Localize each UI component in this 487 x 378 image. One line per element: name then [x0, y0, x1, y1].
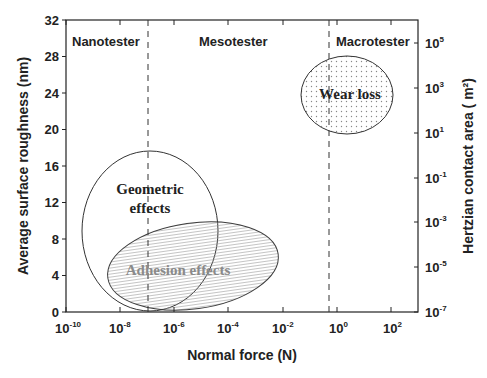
svg-text:10-4: 10-4: [217, 320, 239, 336]
svg-text:16: 16: [45, 159, 59, 174]
region-label-mesotester: Mesotester: [199, 34, 268, 49]
svg-text:10-3: 10-3: [425, 214, 447, 230]
svg-text:100: 100: [329, 320, 348, 336]
svg-text:0: 0: [52, 305, 59, 320]
y-axis-tick-labels: 0 4 8 12 16 20 24 28 32: [45, 13, 60, 320]
svg-text:10-10: 10-10: [55, 320, 82, 336]
svg-text:24: 24: [45, 86, 60, 101]
svg-text:103: 103: [425, 80, 444, 96]
x-axis-tick-labels: 10-10 10-8 10-6 10-4 10-2 100 102: [55, 320, 402, 336]
svg-text:12: 12: [45, 195, 59, 210]
chart: Nanotester Mesotester Macrotester Geomet…: [0, 0, 487, 378]
svg-text:101: 101: [425, 125, 444, 141]
svg-text:32: 32: [45, 13, 59, 28]
svg-text:8: 8: [52, 232, 59, 247]
region-label-nanotester: Nanotester: [72, 34, 140, 49]
y2-axis-tick-labels: 105 103 101 10-1 10-3 10-5 10-7: [425, 35, 447, 320]
svg-text:10-7: 10-7: [425, 304, 447, 320]
geometric-label-line2: effects: [130, 200, 171, 216]
svg-text:10-2: 10-2: [272, 320, 294, 336]
x-axis-label: Normal force (N): [187, 347, 297, 363]
svg-text:105: 105: [425, 35, 444, 51]
geometric-label-line1: Geometric: [116, 181, 184, 197]
svg-text:20: 20: [45, 122, 59, 137]
svg-text:28: 28: [45, 49, 59, 64]
svg-text:102: 102: [383, 320, 402, 336]
y2-axis-label: Hertzian contact area ( m²): [460, 78, 476, 254]
svg-text:10-8: 10-8: [109, 320, 131, 336]
region-label-macrotester: Macrotester: [336, 34, 410, 49]
svg-text:4: 4: [52, 268, 60, 283]
svg-text:10-5: 10-5: [425, 259, 447, 275]
adhesion-label: Adhesion effects: [126, 262, 231, 278]
svg-text:10-1: 10-1: [425, 170, 447, 186]
y-axis-label: Average surface roughness (nm): [15, 57, 31, 275]
svg-text:10-6: 10-6: [163, 320, 185, 336]
wear-loss-label: Wear loss: [319, 86, 381, 102]
